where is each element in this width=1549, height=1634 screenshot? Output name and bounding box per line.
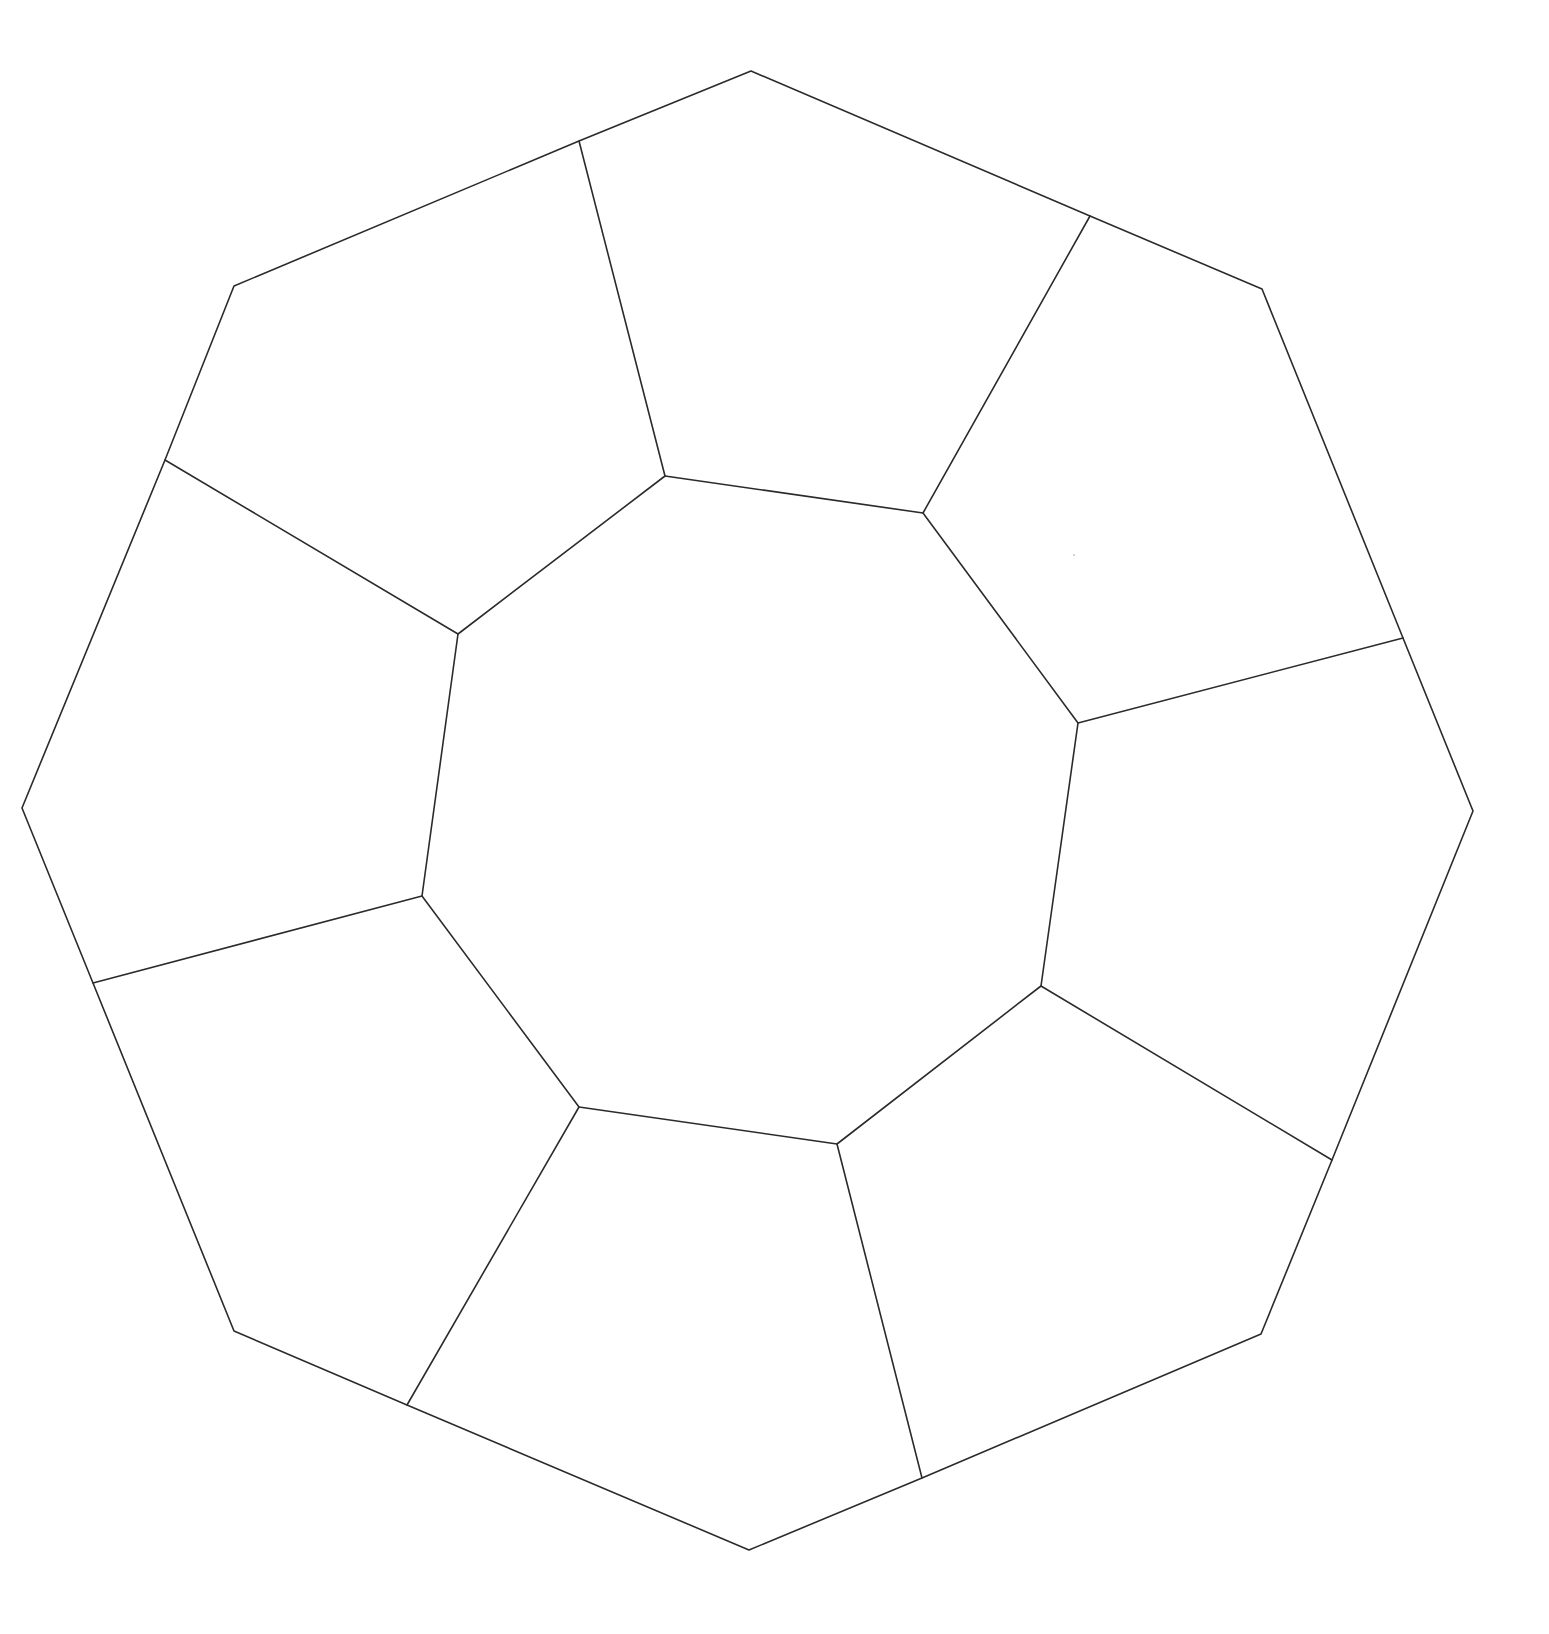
inner-octagon xyxy=(422,476,1078,1144)
spoke-5 xyxy=(837,1144,922,1478)
spoke-1 xyxy=(579,141,665,476)
spoke-2 xyxy=(923,216,1090,513)
outer-boundary xyxy=(22,71,1473,1550)
ring-tiling-diagram xyxy=(0,0,1549,1634)
spoke-6 xyxy=(407,1107,579,1405)
spoke-4 xyxy=(1041,986,1332,1160)
spokes-group xyxy=(93,141,1403,1478)
spoke-3 xyxy=(1078,638,1403,723)
stray-mark xyxy=(1073,554,1075,556)
spoke-8 xyxy=(165,460,458,634)
spoke-7 xyxy=(93,896,422,983)
